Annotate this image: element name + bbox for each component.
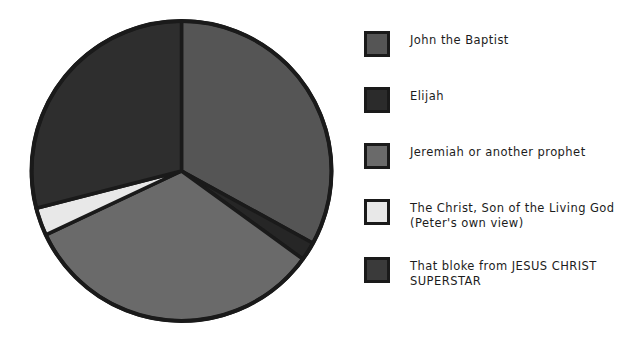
- legend-item-label: That bloke from JESUS CHRIST SUPERSTAR: [410, 256, 627, 288]
- legend-color-swatch-icon: [364, 143, 390, 169]
- legend-item-john-the-baptist[interactable]: John the Baptist: [364, 30, 509, 57]
- legend-item-that-bloke[interactable]: That bloke from JESUS CHRIST SUPERSTAR: [364, 256, 627, 288]
- legend-item-the-christ[interactable]: The Christ, Son of the Living God (Peter…: [364, 198, 627, 230]
- legend-item-label: The Christ, Son of the Living God (Peter…: [410, 198, 627, 230]
- legend-item-label: John the Baptist: [410, 30, 509, 48]
- legend-swatch-wrap: [364, 143, 390, 169]
- legend-item-label: Jeremiah or another prophet: [410, 142, 586, 160]
- legend-swatch-wrap: [364, 257, 390, 283]
- legend-item-label: Elijah: [410, 86, 444, 104]
- pie-chart-area: [0, 0, 360, 339]
- legend-color-swatch-icon: [364, 87, 390, 113]
- legend: John the Baptist Elijah Jeremiah or anot…: [364, 30, 627, 300]
- legend-color-swatch-icon: [364, 199, 390, 225]
- legend-item-jeremiah-or-another-prophet[interactable]: Jeremiah or another prophet: [364, 142, 586, 169]
- legend-item-elijah[interactable]: Elijah: [364, 86, 444, 113]
- legend-color-swatch-icon: [364, 257, 390, 283]
- legend-color-swatch-icon: [364, 31, 390, 57]
- pie-chart-svg: [0, 0, 360, 339]
- legend-swatch-wrap: [364, 199, 390, 225]
- legend-swatch-wrap: [364, 87, 390, 113]
- legend-swatch-wrap: [364, 31, 390, 57]
- chart-root: John the Baptist Elijah Jeremiah or anot…: [0, 0, 627, 339]
